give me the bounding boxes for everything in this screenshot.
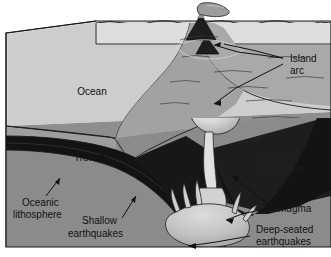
- label-magma: Magma: [278, 203, 312, 214]
- label-deep-seated-earthquakes-line2: earthquakes: [256, 236, 311, 247]
- label-oceanic-lithosphere-line2: lithosphere: [13, 209, 62, 220]
- faint-lithosphere-label-line2: lithosphere: [256, 164, 305, 175]
- label-deep-seated-earthquakes-line1: Deep-seated: [256, 224, 313, 235]
- label-shallow-earthquakes-line2: earthquakes: [68, 228, 123, 239]
- faint-oceanic-label-line1: Oceanic: [262, 152, 299, 163]
- label-ocean: Ocean: [77, 86, 106, 97]
- diagram-canvas: Oceanic lithosphere Ocean Island arc Tre…: [0, 0, 331, 257]
- label-oceanic-lithosphere-line1: Oceanic: [22, 197, 59, 208]
- label-shallow-earthquakes-line1: Shallow: [82, 215, 118, 226]
- label-island-arc-line2: arc: [290, 65, 304, 76]
- label-island-arc-line1: Island: [290, 53, 317, 64]
- subduction-zone-diagram: Oceanic lithosphere Ocean Island arc Tre…: [0, 0, 331, 257]
- label-trench: Trench: [74, 152, 105, 163]
